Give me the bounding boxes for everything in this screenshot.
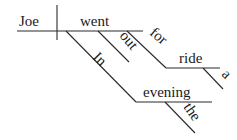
a-diagonal <box>203 68 223 89</box>
verb-word: went <box>80 13 110 29</box>
the-word: the <box>181 100 205 124</box>
ride-word: ride <box>179 50 203 66</box>
for-word: for <box>147 24 171 48</box>
sentence-diagram: Joe went In evening the out for ride a <box>0 0 237 140</box>
subject-word: Joe <box>19 13 39 29</box>
in-word: In <box>90 49 111 70</box>
evening-word: evening <box>143 84 191 100</box>
a-word: a <box>219 66 235 82</box>
